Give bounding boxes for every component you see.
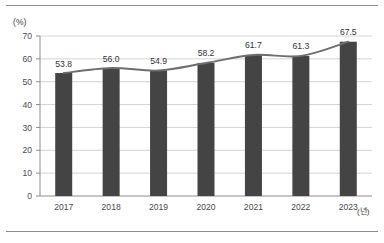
bar — [340, 42, 357, 196]
y-axis-tick-label: 0 — [27, 191, 32, 201]
x-axis-tick-label: 2020 — [196, 202, 215, 212]
bar-value-label: 61.3 — [292, 41, 309, 51]
bar — [292, 56, 309, 196]
x-axis-tick-label: 2019 — [149, 202, 168, 212]
y-axis-tick-label: 70 — [22, 31, 32, 41]
y-axis-tick-labels-group: 010203040506070 — [22, 31, 32, 201]
bar — [55, 73, 72, 196]
x-axis-tick-label: 2021 — [244, 202, 263, 212]
y-axis-tick-label: 60 — [22, 54, 32, 64]
bar — [198, 63, 215, 196]
y-axis-tick-label: 20 — [22, 145, 32, 155]
y-axis-tick-label: 50 — [22, 77, 32, 87]
x-axis-tick-labels-group: 2017201820192020202120222023 — [54, 202, 358, 212]
x-axis-tick-label: 2018 — [102, 202, 121, 212]
bar — [103, 68, 120, 196]
bar-value-label: 54.9 — [150, 56, 167, 66]
bar — [245, 55, 262, 196]
y-axis-tick-label: 30 — [22, 123, 32, 133]
bar-value-label: 61.7 — [245, 40, 262, 50]
y-axis-ticks-group — [36, 36, 40, 196]
x-axis-tick-label: 2023 — [339, 202, 358, 212]
y-axis-tick-label: 10 — [22, 168, 32, 178]
plot-area: 010203040506070 201720182019202020212022… — [0, 0, 384, 243]
chart-figure: (%) (년) 010203040506070 2017201820192020… — [0, 0, 384, 243]
bar-value-label: 53.8 — [55, 59, 72, 69]
bar — [150, 71, 167, 196]
bar-value-label: 58.2 — [198, 48, 215, 58]
y-axis-tick-label: 40 — [22, 100, 32, 110]
bar-value-label: 67.5 — [340, 27, 357, 37]
x-axis-tick-label: 2017 — [54, 202, 73, 212]
bar-value-label: 56.0 — [103, 54, 120, 64]
x-axis-tick-label: 2022 — [291, 202, 310, 212]
